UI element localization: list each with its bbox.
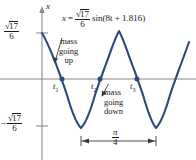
annotation-line-3: up [59,56,78,66]
t2-label: t2 [91,82,96,93]
minus-sign: − [1,119,6,128]
y-tick-label-negative: − √17 6 [1,113,22,134]
radicand-value: 17 [12,113,21,123]
equation-lhs: x [62,13,66,23]
period-arrowhead-left [82,138,89,143]
t2-subscript: 2 [93,87,96,93]
equation-argument: (8t + 1.816) [103,13,146,23]
vertical-axis-arrowhead [39,6,44,13]
square-root-icon: √17 [76,9,89,19]
annotation-line-3: down [104,107,123,117]
period-label: π 4 [112,128,119,148]
vertical-axis-label: x [46,2,50,11]
fraction-positive-amplitude: √17 6 [4,21,19,42]
t3-subscript: 3 [132,87,135,93]
fraction-denominator: 6 [4,32,19,41]
equation-function-name: sin [92,13,103,23]
radicand-value: 17 [80,9,89,19]
radicand-value: 17 [9,21,18,31]
fraction-denominator: 4 [112,138,119,147]
fraction-numerator: √17 [7,113,22,124]
oscillation-graph-figure: x √17 6 − √17 6 x= √17 6 sin(8t + 1.816)… [0,0,196,160]
fraction-negative-amplitude: √17 6 [7,113,22,134]
annotation-mass-going-up: mass going up [59,37,78,66]
zero-crossing-dot-t1 [60,77,65,82]
zero-crossing-dot-t3 [135,77,140,82]
equation-equals: = [68,13,73,23]
t1-label: t1 [53,82,58,93]
equation-amplitude-fraction: √17 6 [75,9,90,30]
period-arrowhead-right [148,138,155,143]
t1-subscript: 1 [55,87,58,93]
y-tick-label-positive: √17 6 [4,21,19,42]
fraction-denominator: 6 [75,20,90,29]
square-root-icon: √17 [8,113,21,123]
fraction-numerator: √17 [4,21,19,32]
fraction-numerator: √17 [75,9,90,20]
annotation-mass-going-down: mass going down [104,88,123,117]
fraction-period: π 4 [112,128,119,148]
t3-label: t3 [130,82,135,93]
square-root-icon: √17 [5,21,18,31]
fraction-denominator: 6 [7,124,22,133]
zero-crossing-dot-t2 [98,77,103,82]
equation-label: x= √17 6 sin(8t + 1.816) [62,9,145,30]
